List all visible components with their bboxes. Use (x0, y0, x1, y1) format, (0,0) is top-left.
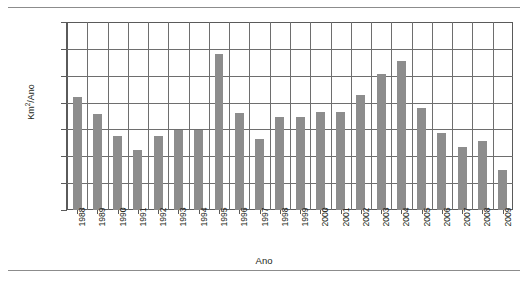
x-tick-label-1991: 1991 (138, 207, 148, 226)
x-label-cell: 1999 (290, 216, 310, 252)
x-tick-label-1994: 1994 (199, 207, 209, 226)
bar-2001[interactable] (336, 112, 345, 210)
bar-2007[interactable] (458, 147, 467, 210)
x-label-cell: 1988 (67, 216, 87, 252)
bar-2005[interactable] (417, 108, 426, 210)
bar-1990[interactable] (113, 136, 122, 210)
bar-slot (189, 22, 209, 210)
bar-2002[interactable] (356, 95, 365, 210)
x-tick-label-2007: 2007 (462, 207, 472, 226)
bar-2000[interactable] (316, 112, 325, 210)
x-label-cell: 2008 (472, 216, 492, 252)
bottom-divider-rule (8, 270, 520, 271)
x-label-cell: 2003 (371, 216, 391, 252)
x-axis-title: Ano (0, 255, 528, 266)
x-tick-label-2000: 2000 (320, 207, 330, 226)
x-label-cell: 1990 (108, 216, 128, 252)
bar-slot (128, 22, 148, 210)
x-label-cell: 1989 (87, 216, 107, 252)
x-tick-label-2009: 2009 (503, 207, 513, 226)
bar-slot (472, 22, 492, 210)
bar-2004[interactable] (397, 61, 406, 210)
bar-1991[interactable] (133, 150, 142, 210)
bar-slot (108, 22, 128, 210)
x-label-cell: 1992 (148, 216, 168, 252)
bar-1999[interactable] (296, 117, 305, 210)
bar-1989[interactable] (93, 114, 102, 210)
bar-slot (229, 22, 249, 210)
x-label-cell: 2002 (351, 216, 371, 252)
top-divider-rule (8, 7, 520, 8)
bar-slot (391, 22, 411, 210)
x-tick-label-2008: 2008 (482, 207, 492, 226)
bar-2006[interactable] (437, 133, 446, 210)
bar-slot (67, 22, 87, 210)
x-label-cell: 2009 (493, 216, 513, 252)
bar-slot (371, 22, 391, 210)
bar-1992[interactable] (154, 136, 163, 210)
bar-1988[interactable] (73, 97, 82, 210)
figure: Km2/Ano 05 00010 00015 00020 00025 00030… (0, 0, 528, 281)
bar-slot (452, 22, 472, 210)
bar-1995[interactable] (215, 54, 224, 210)
x-label-cell: 1997 (249, 216, 269, 252)
x-tick-label-2003: 2003 (381, 207, 391, 226)
bar-slot (351, 22, 371, 210)
x-tick-label-1993: 1993 (178, 207, 188, 226)
x-label-cell: 2004 (391, 216, 411, 252)
x-tick-label-2006: 2006 (442, 207, 452, 226)
x-tick-label-1996: 1996 (239, 207, 249, 226)
x-tick-label-1990: 1990 (118, 207, 128, 226)
x-tick-label-1989: 1989 (97, 207, 107, 226)
y-axis-title-text: Km2/Ano (26, 84, 36, 120)
bar-slot (148, 22, 168, 210)
x-label-cell: 2006 (432, 216, 452, 252)
y-axis-title: Km2/Ano (24, 62, 36, 142)
x-tick-label-1988: 1988 (77, 207, 87, 226)
x-tick-label-2004: 2004 (401, 207, 411, 226)
bar-slot (87, 22, 107, 210)
bar-1993[interactable] (174, 130, 183, 210)
x-label-cell: 1991 (128, 216, 148, 252)
bar-series (67, 22, 513, 210)
x-tick-label-1998: 1998 (280, 207, 290, 226)
bar-1996[interactable] (235, 113, 244, 210)
x-label-cell: 1993 (168, 216, 188, 252)
bar-1994[interactable] (194, 130, 203, 210)
bar-2008[interactable] (478, 141, 487, 210)
x-tick-label-1995: 1995 (219, 207, 229, 226)
x-tick-label-2005: 2005 (422, 207, 432, 226)
bar-slot (330, 22, 350, 210)
x-label-cell: 2000 (310, 216, 330, 252)
bar-slot (412, 22, 432, 210)
bar-2009[interactable] (498, 170, 507, 210)
x-tick-label-1992: 1992 (158, 207, 168, 226)
x-tick-label-1997: 1997 (260, 207, 270, 226)
x-label-cell: 1994 (189, 216, 209, 252)
bar-slot (310, 22, 330, 210)
bar-slot (249, 22, 269, 210)
x-label-cell: 1995 (209, 216, 229, 252)
bar-slot (290, 22, 310, 210)
x-label-cell: 2007 (452, 216, 472, 252)
x-label-cell: 2001 (330, 216, 350, 252)
bar-slot (270, 22, 290, 210)
bar-1998[interactable] (275, 117, 284, 210)
bar-slot (168, 22, 188, 210)
x-label-cell: 2005 (412, 216, 432, 252)
plot-area (67, 22, 513, 210)
x-label-cell: 1998 (270, 216, 290, 252)
x-label-cell: 1996 (229, 216, 249, 252)
x-tick-label-1999: 1999 (300, 207, 310, 226)
bar-slot (493, 22, 513, 210)
x-tick-label-2001: 2001 (341, 207, 351, 226)
bar-2003[interactable] (377, 74, 386, 210)
x-axis-labels: 1988198919901991199219931994199519961997… (67, 216, 513, 252)
x-tick-label-2002: 2002 (361, 207, 371, 226)
bar-slot (209, 22, 229, 210)
bar-slot (432, 22, 452, 210)
bar-1997[interactable] (255, 139, 264, 210)
